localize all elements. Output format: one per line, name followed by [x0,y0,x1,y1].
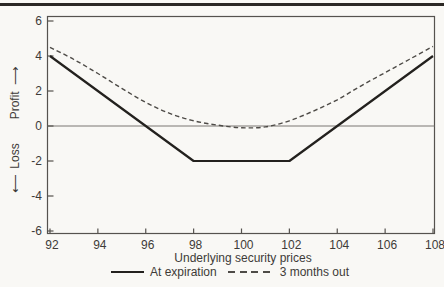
y-axis-label: ⟵ Loss Profit ⟶ [7,1,23,259]
y-tick-label: -2 [31,154,42,168]
y-tick-label: 2 [35,84,42,98]
y-tick-label: -6 [31,224,42,238]
series-line-3-months-out [50,46,433,128]
dashed-line-sample-icon [228,271,274,273]
x-tick-label: 108 [425,238,444,252]
y-axis-profit-label: Profit [8,91,22,119]
x-tick-label: 98 [189,238,203,252]
y-tick-label: 4 [35,49,42,63]
series-line-at-expiration [50,56,433,161]
x-axis-title: Underlying security prices [49,251,437,265]
y-tick-label: 6 [35,14,42,28]
legend-label-3-months-out: 3 months out [280,265,349,279]
x-tick-label: 92 [45,238,59,252]
loss-arrow-icon: ⟵ [8,175,23,193]
y-axis-loss-label: Loss [8,143,22,168]
x-tick-label: 94 [93,238,107,252]
y-tick-label: 0 [35,119,42,133]
plot-frame [48,17,435,234]
chart-legend: At expiration 3 months out [27,265,433,279]
profit-loss-chart: 6420-2-4-692949698100102104106108 [0,0,444,287]
solid-line-sample-icon [111,271,144,273]
x-tick-label: 96 [141,238,155,252]
profit-arrow-icon: ⟶ [8,67,23,85]
x-tick-label: 100 [233,238,253,252]
x-tick-label: 102 [281,238,301,252]
legend-item-3-months-out: 3 months out [228,265,349,279]
legend-item-at-expiration: At expiration [111,265,217,279]
figure-page: 6420-2-4-692949698100102104106108 ⟵ Loss… [0,0,444,287]
y-tick-label: -4 [31,189,42,203]
x-tick-label: 106 [377,238,397,252]
legend-label-at-expiration: At expiration [150,265,217,279]
x-tick-label: 104 [329,238,349,252]
